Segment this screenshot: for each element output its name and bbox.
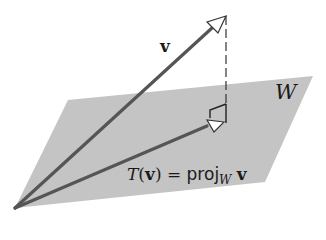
equals-sign: = <box>162 164 187 184</box>
proj-subscript: W <box>219 173 231 187</box>
transform-arg: v <box>145 164 155 184</box>
transform-symbol: T <box>127 164 138 184</box>
open-paren: ( <box>138 164 145 184</box>
close-paren: ) <box>155 164 162 184</box>
plane-w-label: W <box>275 80 297 104</box>
projection-equation-label: T(v) = projW v <box>127 164 247 187</box>
proj-operator: proj <box>187 164 220 184</box>
vector-v-label: v <box>160 36 170 56</box>
proj-arg: v <box>237 164 247 184</box>
